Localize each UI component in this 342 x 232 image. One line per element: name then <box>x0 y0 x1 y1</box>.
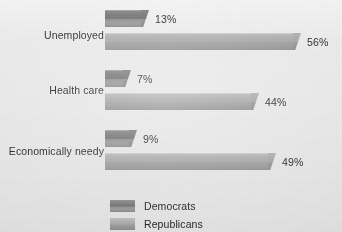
bar-fill <box>105 93 252 110</box>
bar-value-label: 56% <box>307 36 328 47</box>
bar-fill <box>105 10 142 27</box>
bar-value-label: 44% <box>265 96 286 107</box>
bar-fill <box>105 33 294 50</box>
legend-item-republicans: Republicans <box>110 215 203 232</box>
bar-value-label: 13% <box>155 13 176 24</box>
bar-chart: Unemployed 13% 56% Health care 7% <box>0 0 342 232</box>
chart-group: Health care 7% 44% <box>0 68 342 122</box>
legend-swatch-democrats <box>110 200 135 212</box>
legend-item-democrats: Democrats <box>110 197 203 215</box>
category-label: Unemployed <box>0 30 104 41</box>
bar-republicans: 49% <box>105 153 276 170</box>
chart-group: Economically needy 9% 49% <box>0 128 342 182</box>
chart-group: Unemployed 13% 56% <box>0 8 342 62</box>
legend-label-democrats: Democrats <box>144 201 196 212</box>
bar-value-label: 49% <box>282 156 303 167</box>
bar-bevel-tip <box>293 33 301 50</box>
chart-legend: Democrats Republicans <box>110 197 203 232</box>
bar-bevel-tip <box>129 130 137 147</box>
bar-republicans: 44% <box>105 93 259 110</box>
bar-democrats: 7% <box>105 70 131 87</box>
bar-bevel-tip <box>123 70 131 87</box>
legend-swatch-republicans <box>110 218 135 230</box>
bar-bevel-tip <box>268 153 276 170</box>
bar-value-label: 7% <box>137 73 152 84</box>
category-label: Health care <box>0 85 104 96</box>
category-label: Economically needy <box>0 146 104 157</box>
legend-label-republicans: Republicans <box>144 219 203 230</box>
bar-republicans: 56% <box>105 33 301 50</box>
bar-democrats: 9% <box>105 130 137 147</box>
bar-fill <box>105 130 130 147</box>
bar-bevel-tip <box>251 93 259 110</box>
bar-fill <box>105 70 124 87</box>
bar-value-label: 9% <box>143 133 158 144</box>
bar-fill <box>105 153 269 170</box>
bar-democrats: 13% <box>105 10 149 27</box>
bar-bevel-tip <box>141 10 149 27</box>
